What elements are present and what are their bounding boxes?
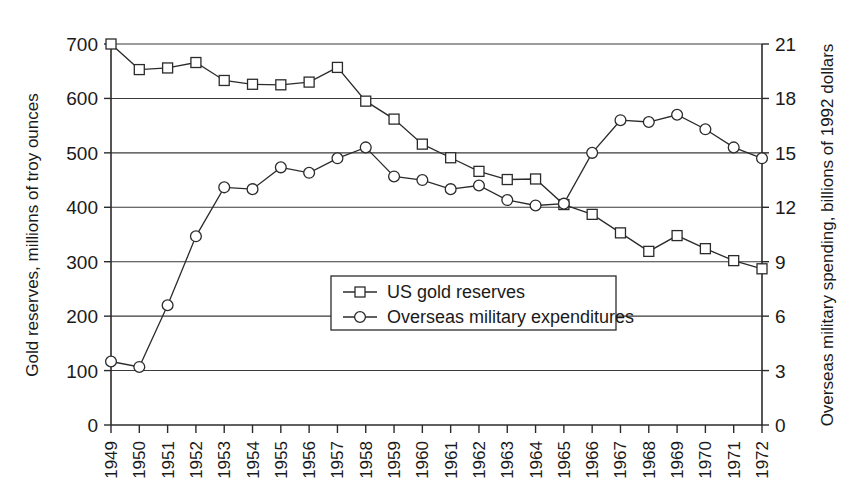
- right-tick-label: 15: [775, 143, 796, 164]
- x-tick-label: 1968: [640, 441, 659, 479]
- x-tick-label: 1957: [328, 441, 347, 479]
- x-tick-label: 1952: [187, 441, 206, 479]
- right-tick-label: 18: [775, 88, 796, 109]
- left-tick-label: 600: [66, 88, 98, 109]
- circle-marker: [672, 109, 683, 120]
- x-tick-label: 1959: [385, 441, 404, 479]
- left-tick-label: 200: [66, 306, 98, 327]
- circle-marker: [757, 153, 768, 164]
- circle-marker: [134, 362, 145, 373]
- circle-marker: [558, 198, 569, 209]
- x-tick-label: 1958: [357, 441, 376, 479]
- circle-marker: [389, 171, 400, 182]
- square-marker: [615, 228, 625, 238]
- square-marker: [276, 80, 286, 90]
- square-marker: [446, 153, 456, 163]
- left-tick-label: 500: [66, 143, 98, 164]
- x-tick-label: 1950: [130, 441, 149, 479]
- left-tick-label: 700: [66, 34, 98, 55]
- x-tick-label: 1963: [498, 441, 517, 479]
- square-marker: [587, 209, 597, 219]
- legend-entry-label: Overseas military expenditures: [387, 307, 634, 327]
- circle-marker: [219, 182, 230, 193]
- circle-marker: [615, 115, 626, 126]
- square-marker: [729, 256, 739, 266]
- circle-marker: [304, 167, 315, 178]
- right-tick-label: 6: [775, 306, 786, 327]
- circle-marker: [355, 312, 366, 323]
- circle-marker: [474, 180, 485, 191]
- chart-legend: US gold reservesOverseas military expend…: [331, 276, 634, 330]
- circle-marker: [502, 195, 513, 206]
- x-tick-label: 1972: [753, 441, 772, 479]
- square-marker: [355, 287, 365, 297]
- square-marker: [248, 79, 258, 89]
- square-marker: [672, 231, 682, 241]
- right-tick-label: 12: [775, 197, 796, 218]
- x-tick-label: 1969: [668, 441, 687, 479]
- x-tick-label: 1960: [413, 441, 432, 479]
- square-marker: [332, 62, 342, 72]
- circle-marker: [643, 117, 654, 128]
- x-tick-label: 1971: [725, 441, 744, 479]
- line-chart: 0100200300400500600700 036912151821 1949…: [0, 0, 857, 501]
- x-tick-label: 1949: [102, 441, 121, 479]
- legend-entry-label: US gold reserves: [387, 282, 525, 302]
- square-marker: [163, 63, 173, 73]
- x-tick-label: 1967: [611, 441, 630, 479]
- x-tick-label: 1962: [470, 441, 489, 479]
- x-tick-label: 1964: [527, 441, 546, 479]
- square-marker: [134, 65, 144, 75]
- square-marker: [191, 58, 201, 68]
- right-tick-label: 3: [775, 361, 786, 382]
- circle-marker: [587, 147, 598, 158]
- square-marker: [361, 96, 371, 106]
- right-tick-label: 0: [775, 415, 786, 436]
- x-tick-label: 1954: [244, 441, 263, 479]
- x-tick-label: 1955: [272, 441, 291, 479]
- circle-marker: [162, 300, 173, 311]
- circle-marker: [247, 184, 258, 195]
- square-marker: [304, 77, 314, 87]
- circle-marker: [360, 142, 371, 153]
- x-tick-label: 1961: [442, 441, 461, 479]
- x-tick-label: 1951: [159, 441, 178, 479]
- circle-marker: [417, 175, 428, 186]
- chart-background: [0, 0, 857, 501]
- right-tick-label: 21: [775, 34, 796, 55]
- x-tick-label: 1953: [215, 441, 234, 479]
- square-marker: [531, 174, 541, 184]
- square-marker: [757, 264, 767, 274]
- square-marker: [474, 166, 484, 176]
- circle-marker: [191, 231, 202, 242]
- left-tick-label: 100: [66, 361, 98, 382]
- square-marker: [219, 75, 229, 85]
- circle-marker: [700, 124, 711, 135]
- x-tick-label: 1970: [696, 441, 715, 479]
- circle-marker: [275, 162, 286, 173]
- left-tick-label: 400: [66, 197, 98, 218]
- left-tick-label: 0: [87, 415, 98, 436]
- square-marker: [417, 139, 427, 149]
- left-axis-title: Gold reserves, millions of troy ounces: [23, 93, 42, 376]
- square-marker: [502, 175, 512, 185]
- circle-marker: [332, 153, 343, 164]
- circle-marker: [728, 142, 739, 153]
- square-marker: [389, 114, 399, 124]
- x-tick-label: 1956: [300, 441, 319, 479]
- x-tick-label: 1965: [555, 441, 574, 479]
- square-marker: [644, 246, 654, 256]
- circle-marker: [445, 184, 456, 195]
- circle-marker: [530, 200, 541, 211]
- x-tick-label: 1966: [583, 441, 602, 479]
- left-tick-label: 300: [66, 252, 98, 273]
- square-marker: [700, 244, 710, 254]
- chart-figure: 0100200300400500600700 036912151821 1949…: [0, 0, 857, 501]
- circle-marker: [106, 356, 117, 367]
- square-marker: [106, 39, 116, 49]
- right-axis-title: Overseas military spending, billions of …: [818, 44, 837, 427]
- right-tick-label: 9: [775, 252, 786, 273]
